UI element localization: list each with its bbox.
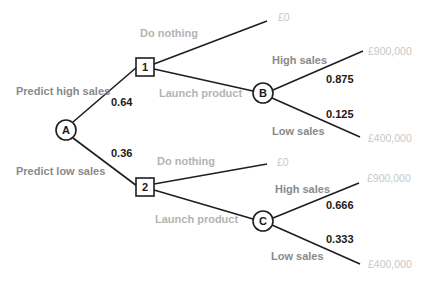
node-label-1: 1 [142,61,148,73]
branch-label-n1-launch: Launch product [159,87,242,99]
probability-predict-low: 0.36 [111,147,132,159]
probability-B-low: 0.125 [326,108,354,120]
payoff-n2-do-nothing: £0 [277,156,289,168]
branch-label-n2-do-nothing: Do nothing [157,155,215,167]
branch-label-C-low: Low sales [271,250,324,262]
payoff-B-low: £400,000 [368,132,412,144]
probability-predict-high: 0.64 [111,96,133,108]
payoff-n1-do-nothing: £0 [278,11,290,23]
node-label-2: 2 [142,181,148,193]
edge-predict-low [73,138,137,186]
node-label-C: C [259,215,267,227]
payoff-C-low: £400,000 [368,258,412,270]
payoff-C-high: £900,000 [367,172,411,184]
branch-label-predict-high: Predict high sales [16,85,110,97]
branch-label-n2-launch: Launch product [155,213,238,225]
chance-node-A: A [56,120,76,140]
decision-node-2: 2 [136,178,154,196]
branch-label-n1-do-nothing: Do nothing [140,27,198,39]
probability-B-high: 0.875 [326,73,354,85]
chance-node-B: B [253,83,273,103]
decision-tree-diagram: A 1 2 B C Predict high sales 0.64 0.36 P… [0,0,430,283]
chance-node-C: C [253,211,273,231]
branch-label-C-high: High sales [275,183,330,195]
branch-label-B-low: Low sales [272,125,325,137]
probability-C-high: 0.666 [326,199,354,211]
node-label-B: B [259,87,267,99]
branch-label-B-high: High sales [272,54,327,66]
node-label-A: A [62,124,70,136]
decision-node-1: 1 [136,58,154,76]
edge-n2-do-nothing [154,164,267,184]
branch-label-predict-low: Predict low sales [16,165,105,177]
payoff-B-high: £900,000 [368,45,412,57]
probability-C-low: 0.333 [326,233,354,245]
